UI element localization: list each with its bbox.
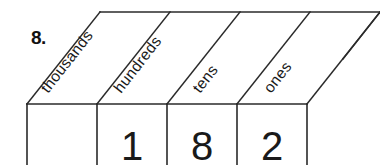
digit-cell-tens[interactable]: 8 <box>167 126 237 165</box>
column-header-ones: ones <box>260 58 295 96</box>
column-header-hundreds: hundreds <box>110 33 165 96</box>
digit-cell-hundreds[interactable]: 1 <box>97 126 167 165</box>
header-slant-5-clipped <box>343 12 380 59</box>
column-header-tens: tens <box>189 61 221 96</box>
digit-cell-ones[interactable]: 2 <box>237 126 307 165</box>
column-header-thousands: thousands <box>37 27 96 96</box>
place-value-chart-problem: 8. thousands hundreds tens ones 1 8 2 <box>0 0 380 165</box>
